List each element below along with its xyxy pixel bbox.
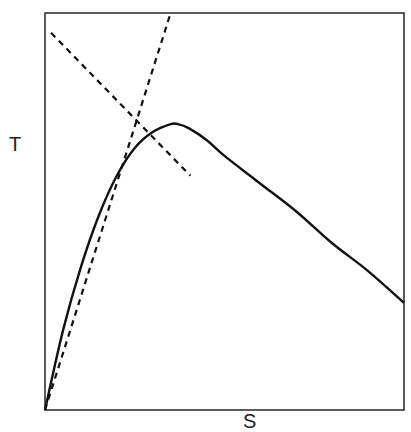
series-asymptote-falling: [51, 33, 190, 176]
x-axis-label: S: [243, 410, 256, 432]
y-axis-label: T: [9, 133, 21, 156]
series-layer: [45, 13, 404, 410]
series-curve: [45, 123, 404, 410]
series-asymptote-rising: [45, 13, 171, 410]
plot-frame: [45, 13, 404, 410]
